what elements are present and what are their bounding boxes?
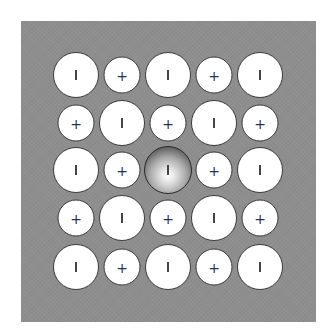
minus-charge-icon <box>167 165 169 175</box>
cation-ion: + <box>196 57 233 94</box>
plus-charge-icon: + <box>254 116 266 130</box>
anion-ion <box>145 52 191 98</box>
anion-ion <box>145 244 191 290</box>
minus-charge-icon <box>121 213 123 223</box>
minus-charge-icon <box>213 118 215 128</box>
anion-ion <box>53 147 99 193</box>
anion-ion <box>237 52 283 98</box>
minus-charge-icon <box>167 262 169 272</box>
cation-ion: + <box>104 152 141 189</box>
plus-charge-icon: + <box>162 116 174 130</box>
plus-charge-icon: + <box>208 163 220 177</box>
plus-charge-icon: + <box>70 211 82 225</box>
cation-ion: + <box>242 105 279 142</box>
cation-ion: + <box>196 152 233 189</box>
cation-ion: + <box>104 57 141 94</box>
minus-charge-icon <box>259 70 261 80</box>
plus-charge-icon: + <box>116 260 128 274</box>
minus-charge-icon <box>75 70 77 80</box>
cation-ion: + <box>150 200 187 237</box>
minus-charge-icon <box>75 262 77 272</box>
plus-charge-icon: + <box>116 163 128 177</box>
plus-charge-icon: + <box>254 211 266 225</box>
minus-charge-icon <box>213 213 215 223</box>
anion-ion <box>237 244 283 290</box>
minus-charge-icon <box>259 262 261 272</box>
plus-charge-icon: + <box>116 68 128 82</box>
minus-charge-icon <box>75 165 77 175</box>
minus-charge-icon <box>259 165 261 175</box>
plus-charge-icon: + <box>162 211 174 225</box>
minus-charge-icon <box>167 70 169 80</box>
highlighted-anion-ion <box>144 146 192 194</box>
anion-ion <box>237 147 283 193</box>
cation-ion: + <box>150 105 187 142</box>
cation-ion: + <box>104 249 141 286</box>
anion-ion <box>53 52 99 98</box>
plus-charge-icon: + <box>208 260 220 274</box>
anion-ion <box>99 195 145 241</box>
anion-ion <box>191 195 237 241</box>
plus-charge-icon: + <box>70 116 82 130</box>
plus-charge-icon: + <box>208 68 220 82</box>
cation-ion: + <box>196 249 233 286</box>
cation-ion: + <box>58 105 95 142</box>
anion-ion <box>191 100 237 146</box>
cation-ion: + <box>58 200 95 237</box>
anion-ion <box>53 244 99 290</box>
minus-charge-icon <box>121 118 123 128</box>
anion-ion <box>99 100 145 146</box>
cation-ion: + <box>242 200 279 237</box>
